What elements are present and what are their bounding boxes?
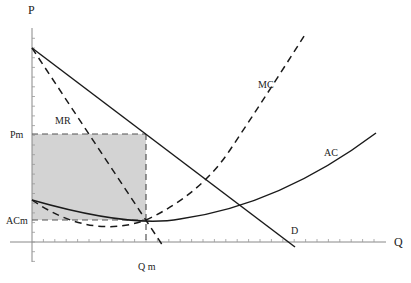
y-axis-label: P: [28, 3, 35, 17]
profit-area: [32, 134, 146, 220]
qm-label: Q m: [138, 261, 156, 272]
mr-label: MR: [55, 115, 71, 126]
ac-label: AC: [324, 147, 338, 158]
monopoly-profit-chart: P Q Pm ACm Q m MR MC AC D: [0, 0, 411, 283]
mc-label: MC: [258, 79, 274, 90]
x-axis-label: Q: [394, 235, 403, 249]
d-label: D: [291, 225, 298, 236]
pm-label: Pm: [10, 129, 24, 140]
acm-label: ACm: [6, 215, 28, 226]
